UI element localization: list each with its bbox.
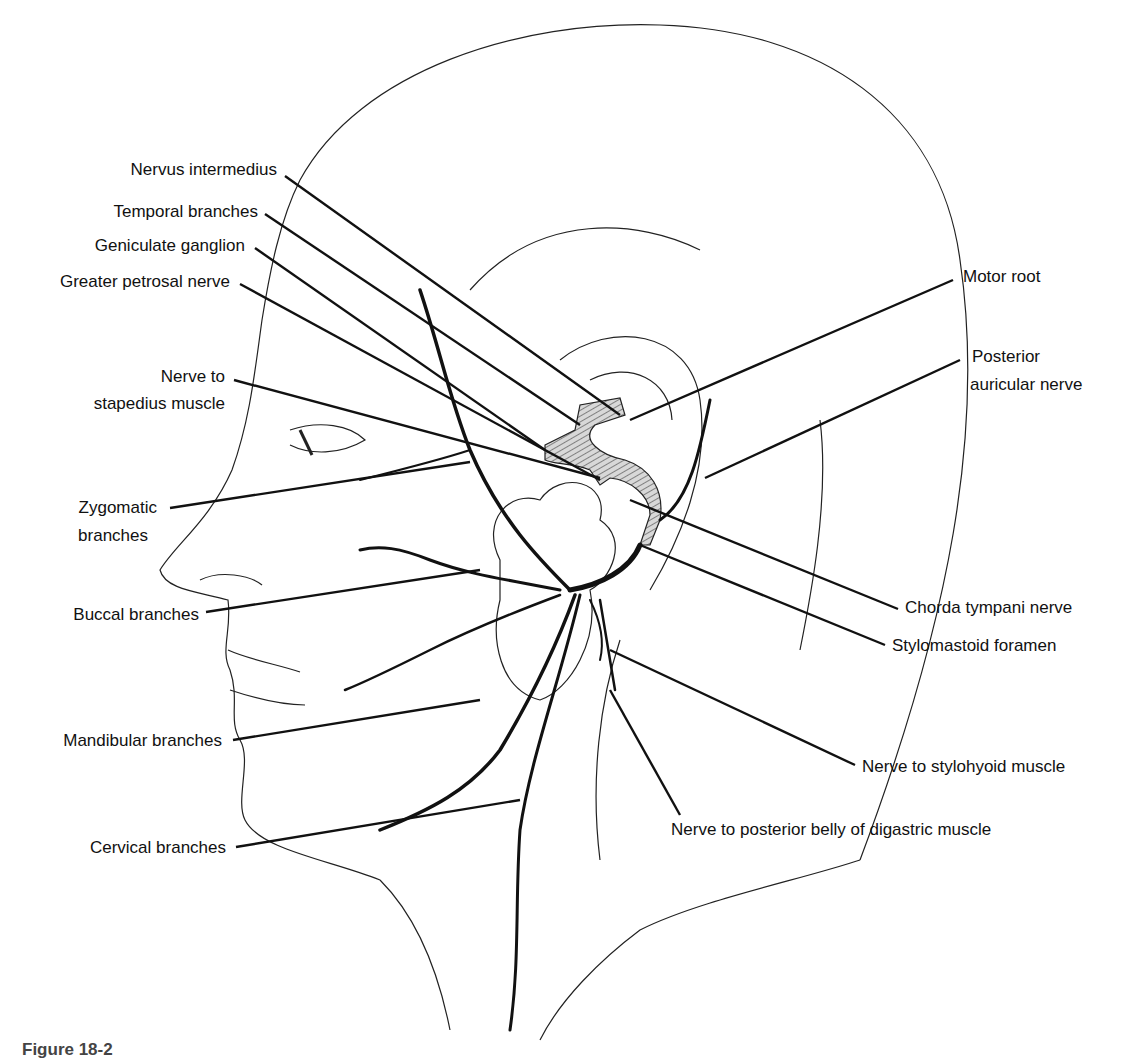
label-posterior-auricular-line2: auricular nerve xyxy=(970,375,1082,395)
geniculate-region xyxy=(545,398,661,545)
label-zygomatic-line2: branches xyxy=(78,526,148,546)
head-outline xyxy=(160,25,968,1040)
label-stylomastoid-foramen: Stylomastoid foramen xyxy=(892,636,1056,656)
label-zygomatic-line1: Zygomatic xyxy=(79,498,157,518)
label-nerve-to-digastric: Nerve to posterior belly of digastric mu… xyxy=(671,820,991,840)
label-buccal-branches: Buccal branches xyxy=(73,605,199,625)
label-motor-root: Motor root xyxy=(963,267,1040,287)
label-nerve-to-stylohyoid: Nerve to stylohyoid muscle xyxy=(862,757,1065,777)
label-chorda-tympani: Chorda tympani nerve xyxy=(905,598,1072,618)
label-nervus-intermedius: Nervus intermedius xyxy=(131,160,277,180)
leader-lines xyxy=(170,176,960,847)
nerve-branches xyxy=(345,290,710,1030)
label-greater-petrosal-nerve: Greater petrosal nerve xyxy=(60,272,230,292)
figure-caption: Figure 18-2 xyxy=(22,1040,113,1060)
label-nerve-to-stapedius-line2: stapedius muscle xyxy=(94,394,225,414)
label-cervical-branches: Cervical branches xyxy=(90,838,226,858)
label-posterior-auricular-line1: Posterior xyxy=(972,347,1040,367)
label-temporal-branches: Temporal branches xyxy=(113,202,258,222)
label-geniculate-ganglion: Geniculate ganglion xyxy=(95,236,245,256)
label-mandibular-branches: Mandibular branches xyxy=(63,731,222,751)
label-nerve-to-stapedius-line1: Nerve to xyxy=(161,367,225,387)
